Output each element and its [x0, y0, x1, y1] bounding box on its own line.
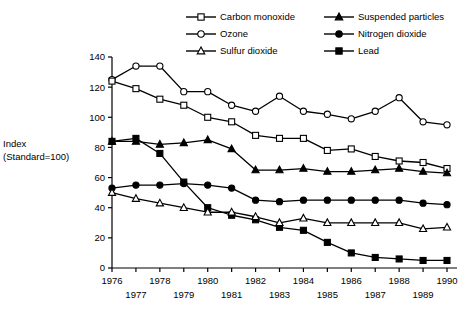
x-tick-label-top: 1990 — [436, 275, 457, 286]
open-circle-marker — [348, 116, 354, 122]
open-square-marker — [157, 96, 163, 102]
open-square-marker — [277, 135, 283, 141]
filled-triangle-marker — [204, 136, 211, 143]
open-circle-marker — [420, 119, 426, 125]
filled-circle-marker — [181, 181, 187, 187]
y-tick-label: 60 — [94, 172, 105, 183]
open-square-marker — [229, 119, 235, 125]
air-quality-index-chart-figure: Carbon monoxide Suspended particles Ozon… — [0, 0, 463, 309]
x-tick-label-bottom: 1979 — [173, 289, 194, 300]
open-square-marker — [348, 146, 354, 152]
open-circle-marker — [229, 102, 235, 108]
filled-square-marker — [420, 257, 426, 263]
x-tick-label-bottom: 1981 — [221, 289, 242, 300]
filled-square-marker — [157, 150, 163, 156]
open-circle-marker — [252, 108, 258, 114]
open-triangle-marker — [443, 223, 450, 230]
y-tick-label: 80 — [94, 142, 105, 153]
plot-area: 0204060801001201401976197719781979198019… — [0, 0, 463, 309]
filled-square-marker — [396, 256, 402, 262]
open-circle-marker — [181, 89, 187, 95]
filled-square-marker — [133, 135, 139, 141]
filled-circle-marker — [324, 197, 330, 203]
series-sulfur-dioxide — [108, 189, 450, 232]
open-square-marker — [133, 86, 139, 92]
series-ozone — [109, 63, 450, 128]
filled-circle-marker — [300, 197, 306, 203]
y-tick-label: 0 — [100, 262, 105, 273]
open-circle-marker — [133, 63, 139, 69]
filled-circle-marker — [133, 182, 139, 188]
filled-triangle-marker — [396, 165, 403, 172]
filled-circle-marker — [205, 182, 211, 188]
open-triangle-marker — [300, 214, 307, 221]
axes: 0204060801001201401976197719781979198019… — [89, 51, 457, 300]
y-tick-label: 140 — [89, 51, 105, 62]
open-square-marker — [205, 114, 211, 120]
filled-square-marker — [348, 250, 354, 256]
filled-circle-marker — [372, 197, 378, 203]
x-tick-label-top: 1984 — [293, 275, 314, 286]
filled-circle-marker — [420, 200, 426, 206]
open-circle-marker — [157, 63, 163, 69]
filled-square-marker — [372, 254, 378, 260]
x-tick-label-top: 1976 — [101, 275, 122, 286]
x-tick-label-top: 1978 — [149, 275, 170, 286]
open-square-marker — [372, 153, 378, 159]
y-tick-label: 40 — [94, 202, 105, 213]
filled-triangle-marker — [300, 165, 307, 172]
open-circle-marker — [372, 108, 378, 114]
x-tick-label-bottom: 1989 — [413, 289, 434, 300]
filled-circle-marker — [252, 197, 258, 203]
open-circle-marker — [276, 93, 282, 99]
open-circle-marker — [300, 108, 306, 114]
filled-circle-marker — [229, 185, 235, 191]
y-tick-label: 100 — [89, 112, 105, 123]
open-square-marker — [420, 160, 426, 166]
filled-square-marker — [444, 257, 450, 263]
x-tick-label-bottom: 1977 — [125, 289, 146, 300]
x-tick-label-top: 1986 — [341, 275, 362, 286]
filled-circle-marker — [348, 197, 354, 203]
x-tick-label-top: 1982 — [245, 275, 266, 286]
plot-svg: 0204060801001201401976197719781979198019… — [0, 0, 463, 309]
open-circle-marker — [396, 95, 402, 101]
x-tick-label-bottom: 1985 — [317, 289, 338, 300]
open-circle-marker — [444, 122, 450, 128]
open-square-marker — [253, 132, 259, 138]
filled-circle-marker — [276, 199, 282, 205]
x-tick-label-bottom: 1983 — [269, 289, 290, 300]
filled-circle-marker — [444, 202, 450, 208]
x-tick-label-top: 1980 — [197, 275, 218, 286]
open-square-marker — [109, 78, 115, 84]
filled-square-marker — [109, 138, 115, 144]
filled-circle-marker — [396, 197, 402, 203]
y-tick-label: 20 — [94, 232, 105, 243]
filled-circle-marker — [157, 182, 163, 188]
open-circle-marker — [205, 89, 211, 95]
open-circle-marker — [324, 111, 330, 117]
filled-square-marker — [324, 239, 330, 245]
open-square-marker — [324, 147, 330, 153]
x-tick-label-bottom: 1987 — [365, 289, 386, 300]
filled-square-marker — [300, 227, 306, 233]
open-square-marker — [396, 158, 402, 164]
y-tick-label: 120 — [89, 82, 105, 93]
x-tick-label-top: 1988 — [389, 275, 410, 286]
open-square-marker — [300, 135, 306, 141]
series-carbon-monoxide — [109, 78, 450, 171]
open-square-marker — [181, 102, 187, 108]
